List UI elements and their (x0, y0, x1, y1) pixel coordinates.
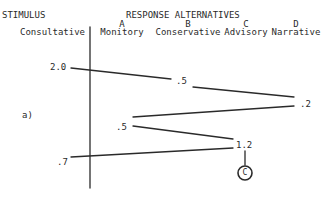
path-segment-3 (133, 106, 294, 117)
path-segment-1 (71, 68, 171, 79)
path-segment-5 (71, 148, 233, 157)
terminal-label: C (243, 168, 248, 178)
path-segment-4 (133, 126, 233, 139)
path-segment-2 (193, 87, 294, 97)
path-diagram (0, 0, 332, 197)
